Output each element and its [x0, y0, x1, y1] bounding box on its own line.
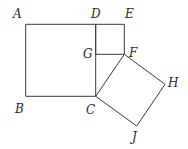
label-b: B [14, 102, 24, 116]
square-defg [96, 24, 125, 54]
square-cfhj [96, 54, 165, 126]
label-h: H [167, 76, 179, 90]
geometry-diagram: A B C D E F G H J [0, 0, 188, 149]
label-j: J [129, 130, 138, 144]
label-e: E [124, 7, 134, 21]
label-g: G [83, 47, 93, 61]
label-c: C [86, 103, 95, 117]
label-a: A [12, 7, 22, 21]
label-f: F [128, 46, 138, 60]
label-d: D [90, 7, 101, 21]
